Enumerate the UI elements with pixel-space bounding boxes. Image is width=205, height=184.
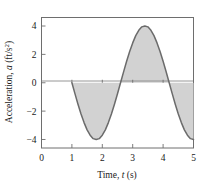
y-tick-label: 2 bbox=[32, 50, 37, 60]
y-axis-title-unit: (ft/s bbox=[4, 47, 15, 65]
y-axis-title-prefix: Acceleration, bbox=[4, 70, 14, 123]
y-tick-label: −2 bbox=[26, 107, 36, 117]
x-tick-label: 5 bbox=[191, 153, 196, 163]
x-axis-tick-labels: 012345 bbox=[39, 153, 196, 163]
x-tick-label: 4 bbox=[161, 153, 166, 163]
y-axis-title-unit-close: ) bbox=[4, 41, 15, 44]
x-axis-ticks bbox=[42, 144, 194, 148]
x-axis-title: Time, t (s) bbox=[97, 170, 137, 181]
x-tick-label: 3 bbox=[130, 153, 135, 163]
acceleration-time-chart: 012345 420−2−4 Time, t (s) Acceleration,… bbox=[0, 0, 205, 184]
y-tick-label: 4 bbox=[32, 21, 37, 31]
chart-figure: 012345 420−2−4 Time, t (s) Acceleration,… bbox=[0, 0, 205, 184]
x-tick-label: 0 bbox=[39, 153, 44, 163]
y-axis-ticks bbox=[42, 26, 46, 139]
x-tick-label: 2 bbox=[100, 153, 105, 163]
y-axis-title: Acceleration, a (ft/s2) bbox=[3, 41, 15, 123]
x-axis-title-unit: (s) bbox=[124, 170, 136, 181]
y-tick-label: 0 bbox=[32, 78, 37, 88]
y-axis-tick-labels: 420−2−4 bbox=[26, 21, 36, 144]
y-tick-label: −4 bbox=[26, 135, 36, 145]
x-tick-label: 1 bbox=[70, 153, 75, 163]
x-axis-title-prefix: Time, bbox=[97, 170, 121, 180]
